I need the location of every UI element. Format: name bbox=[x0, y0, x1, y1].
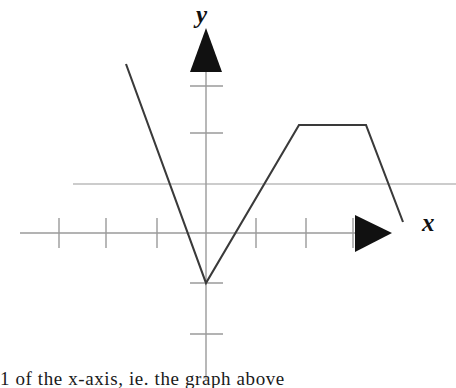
math-graph-figure: y x 1 of the x-axis, ie. the graph above bbox=[0, 0, 456, 388]
figure-caption: 1 of the x-axis, ie. the graph above bbox=[0, 368, 456, 388]
graph-curve bbox=[126, 64, 403, 283]
y-axis-label: y bbox=[196, 2, 207, 27]
coordinate-plane-svg bbox=[0, 0, 456, 388]
x-axis-arrowhead-icon bbox=[355, 215, 392, 252]
y-axis-arrowhead-icon bbox=[190, 28, 222, 72]
x-axis-label: x bbox=[422, 210, 435, 235]
